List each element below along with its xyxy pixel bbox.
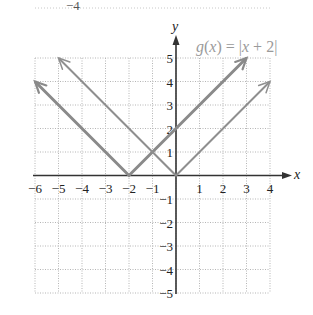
previous-tick-label: −4 <box>66 0 80 13</box>
graph-figure: −4 −6−5−4−3−2−1123454321−1−2−3−4−5 x y g… <box>0 0 313 315</box>
fn-var2: x <box>241 38 249 55</box>
g-function-line <box>35 58 247 176</box>
y-axis-arrow-icon <box>173 35 180 45</box>
y-tick-label: −4 <box>159 263 173 278</box>
x-tick-label: −2 <box>122 181 136 196</box>
fn-name: g <box>196 38 204 56</box>
x-tick-label: 1 <box>196 181 203 196</box>
x-tick-label: 2 <box>220 181 227 196</box>
x-tick-label: −3 <box>99 181 113 196</box>
fn-var: x <box>208 38 216 55</box>
x-tick-label: −5 <box>52 181 66 196</box>
y-tick-label: −5 <box>159 286 173 301</box>
y-tick-label: 5 <box>167 51 174 66</box>
x-axis-arrow-icon <box>282 172 292 179</box>
y-tick-label: −1 <box>159 192 173 207</box>
previous-figure-fragment: −4 <box>35 0 270 13</box>
y-tick-label: −2 <box>159 216 173 231</box>
y-tick-label: 4 <box>167 75 174 90</box>
y-tick-label: 1 <box>167 145 174 160</box>
x-tick-label: −1 <box>146 181 160 196</box>
y-tick-label: −3 <box>159 239 173 254</box>
y-tick-label: 3 <box>167 98 174 113</box>
function-label: g(x) = |x + 2| <box>196 38 277 56</box>
x-tick-label: 3 <box>243 181 250 196</box>
x-tick-label: −6 <box>28 181 42 196</box>
fn-tail: + 2| <box>249 38 277 56</box>
x-tick-label: −4 <box>75 181 89 196</box>
axes <box>33 35 292 294</box>
y-axis-label: y <box>170 19 179 34</box>
fn-equals: ) = | <box>216 38 242 56</box>
x-tick-label: 4 <box>267 181 274 196</box>
x-axis-label: x <box>293 167 301 182</box>
f-function-line <box>59 58 271 176</box>
